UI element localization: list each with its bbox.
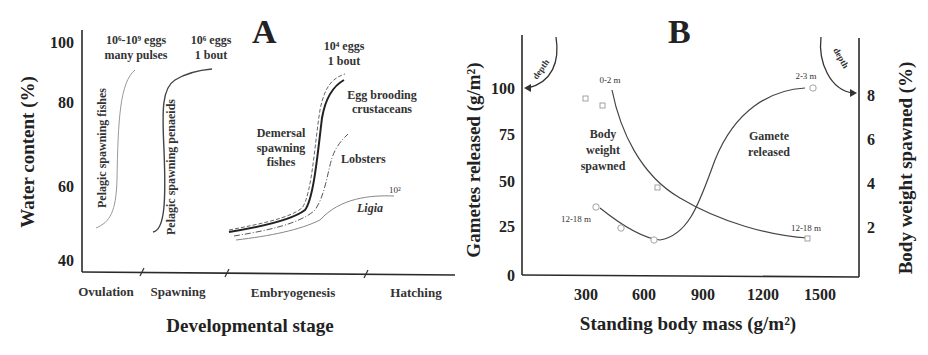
- ann-1-bout-a: 1 bout: [195, 48, 227, 62]
- left-tick-50: 50: [499, 173, 515, 190]
- label-body-3: spawned: [581, 159, 626, 173]
- marker-circle: [593, 204, 599, 210]
- label-gamete-2: released: [748, 145, 790, 159]
- y-tick-40: 40: [58, 252, 74, 269]
- panel-b-x-axis: [522, 275, 859, 277]
- right-tick-2: 2: [867, 219, 875, 236]
- label-egg-brooding-1: Egg brooding: [347, 88, 416, 102]
- panel-a-letter: A: [252, 13, 277, 50]
- y-tick-100: 100: [50, 34, 74, 51]
- label-demersal-3: fishes: [267, 155, 296, 169]
- panel-b-letter: B: [668, 13, 691, 50]
- label-1e2: 10²: [389, 185, 401, 195]
- right-tick-8: 8: [867, 87, 875, 104]
- label-0-2m: 0-2 m: [599, 75, 620, 85]
- label-lobsters: Lobsters: [341, 152, 386, 166]
- stage-ovulation: Ovulation: [78, 284, 134, 299]
- x-tick-900: 900: [691, 286, 715, 303]
- left-tick-75: 75: [499, 126, 515, 143]
- label-2-3m: 2-3 m: [795, 71, 816, 81]
- panel-b: B 100 75 50 25 0 8 6 4 2 300 600 900 120…: [463, 13, 917, 335]
- left-tick-0: 0: [507, 267, 515, 284]
- y-tick-80: 80: [58, 94, 74, 111]
- right-tick-6: 6: [867, 131, 875, 148]
- label-12-18m-left: 12-18 m: [561, 214, 591, 224]
- figure: A 100 80 60 40 Water content (%) Ovulati…: [0, 0, 928, 355]
- panel-a-x-axis: [82, 272, 455, 275]
- marker-square: [600, 103, 605, 108]
- label-demersal-2: spawning: [257, 141, 306, 155]
- marker-circle: [810, 85, 816, 91]
- label-penaeids: Pelagic spawning penaeids: [164, 99, 178, 235]
- depth-label-right: depth: [831, 46, 851, 70]
- label-egg-brooding-2: crustaceans: [352, 102, 412, 116]
- ann-eggs-1e4: 10⁴ eggs: [324, 39, 365, 53]
- ann-eggs-many: 10⁶-10⁹ eggs: [106, 33, 167, 47]
- x-tick-1200: 1200: [747, 286, 779, 303]
- curve-penaeids: [153, 69, 212, 232]
- marker-circle: [651, 237, 657, 243]
- ann-many-pulses: many pulses: [104, 48, 167, 62]
- marker-square: [655, 185, 660, 190]
- panel-b-right-label: Body weight spawned (%): [895, 62, 917, 275]
- arrowhead-right-icon: [850, 89, 857, 97]
- y-tick-60: 60: [58, 178, 74, 195]
- right-tick-4: 4: [867, 175, 875, 192]
- label-body-2: weight: [586, 143, 620, 157]
- label-demersal-1: Demersal: [257, 126, 306, 140]
- marker-circle: [618, 225, 624, 231]
- x-tick-1500: 1500: [804, 286, 836, 303]
- depth-label-left: depth: [530, 57, 551, 81]
- arrowhead-left-icon: [524, 84, 531, 92]
- ann-1-bout-b: 1 bout: [328, 54, 360, 68]
- curve-body-weight-spawned: [612, 90, 808, 238]
- label-body-1: Body: [590, 127, 617, 141]
- marker-square: [805, 236, 810, 241]
- panel-a-x-label: Developmental stage: [166, 315, 333, 336]
- label-pelagic-fishes: Pelagic spawning fishes: [95, 88, 109, 208]
- label-12-18m-right: 12-18 m: [791, 223, 821, 233]
- stage-spawning: Spawning: [151, 284, 206, 299]
- stage-hatching: Hatching: [390, 285, 442, 300]
- panel-b-x-label: Standing body mass (g/m²): [580, 313, 796, 335]
- label-gamete-1: Gamete: [749, 129, 790, 143]
- curve-gamete-released: [600, 88, 805, 240]
- panel-a: A 100 80 60 40 Water content (%) Ovulati…: [17, 13, 455, 336]
- left-tick-100: 100: [491, 80, 515, 97]
- panel-b-left-label: Gametes released (g/m²): [463, 62, 485, 257]
- left-tick-25: 25: [499, 218, 515, 235]
- x-tick-300: 300: [574, 286, 598, 303]
- label-ligia: Ligia: [356, 201, 383, 215]
- panel-a-y-label: Water content (%): [17, 76, 39, 228]
- x-tick-600: 600: [632, 286, 656, 303]
- gamete-markers: [593, 85, 816, 243]
- marker-square: [583, 96, 588, 101]
- stage-embryogenesis: Embryogenesis: [251, 285, 336, 300]
- ann-eggs-1e6: 10⁶ eggs: [191, 33, 232, 47]
